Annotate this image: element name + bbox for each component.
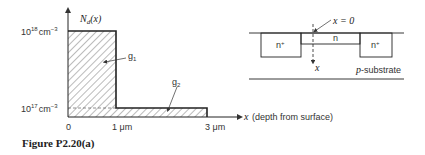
g1-label: g1	[128, 51, 137, 62]
y-tick-1e18: 1018cm−3	[21, 26, 58, 37]
device-cross-section: n+ n n+ x x = 0 p-substrate	[249, 15, 404, 79]
region-g1	[68, 31, 116, 117]
x-tick-1um: 1 μm	[112, 122, 132, 132]
x-axis-variable: x	[243, 111, 249, 122]
region-g2	[116, 108, 207, 117]
n-plus-left-label: n+	[276, 40, 285, 50]
y-tick-1e17: 1017cm−3	[21, 103, 58, 114]
g2-leader	[168, 87, 177, 110]
depth-axis-label: x	[314, 62, 320, 73]
x-tick-0: 0	[66, 122, 71, 132]
origin-label: x = 0	[332, 15, 354, 26]
doping-profile-plot: Nd(x) 1018cm−3 1017cm−3 0 1 μm 3 μm x (d…	[21, 10, 333, 132]
x-tick-3um: 3 μm	[205, 122, 225, 132]
figure-canvas: Nd(x) 1018cm−3 1017cm−3 0 1 μm 3 μm x (d…	[0, 0, 425, 155]
n-region	[301, 33, 360, 44]
n-label: n	[333, 33, 338, 43]
substrate-label: p-substrate	[355, 64, 401, 75]
origin-leader	[315, 20, 331, 31]
n-plus-right-label: n+	[371, 40, 380, 50]
g2-label: g2	[172, 77, 181, 88]
figure-caption: Figure P2.20(a)	[22, 137, 95, 150]
y-axis-label: Nd(x)	[79, 13, 102, 26]
x-axis-description: (depth from surface)	[252, 112, 333, 122]
